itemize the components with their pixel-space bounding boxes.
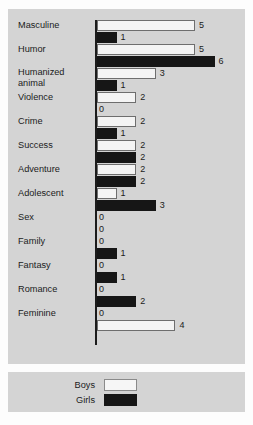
bar-slot-girls: 1 bbox=[97, 32, 245, 43]
category-label: Adolescent bbox=[18, 188, 92, 199]
bar-slot-girls: 2 bbox=[97, 176, 245, 187]
bar-value-label: 0 bbox=[99, 235, 104, 247]
bar-value-label: 6 bbox=[219, 55, 224, 67]
category-label: Feminine bbox=[18, 308, 92, 319]
bar-row: Humanizedanimal31 bbox=[8, 68, 245, 92]
legend-panel: Boys Girls bbox=[8, 372, 245, 412]
bar-girls bbox=[97, 176, 136, 187]
bar-value-label: 2 bbox=[140, 91, 145, 103]
category-label-line: animal bbox=[18, 78, 92, 89]
row-bars: 56 bbox=[97, 44, 245, 68]
bar-row: Masculine51 bbox=[8, 20, 245, 44]
legend-label-girls: Girls bbox=[8, 395, 104, 405]
bar-value-label: 1 bbox=[121, 127, 126, 139]
bar-girls bbox=[97, 56, 215, 67]
legend-item-girls: Girls bbox=[8, 393, 245, 407]
bar-girls bbox=[97, 200, 156, 211]
bar-row: Family01 bbox=[8, 236, 245, 260]
bar-value-label: 0 bbox=[99, 211, 104, 223]
bar-slot-boys: 0 bbox=[97, 284, 245, 295]
bar-girls bbox=[97, 152, 136, 163]
category-label: Humanizedanimal bbox=[18, 67, 92, 88]
row-bars: 00 bbox=[97, 212, 245, 236]
bar-boys bbox=[97, 20, 195, 31]
bar-boys bbox=[97, 116, 136, 127]
bar-slot-boys: 2 bbox=[97, 164, 245, 175]
bar-value-label: 1 bbox=[121, 79, 126, 91]
bar-value-label: 2 bbox=[140, 151, 145, 163]
row-bars: 02 bbox=[97, 284, 245, 308]
bar-row: Crime21 bbox=[8, 116, 245, 140]
bar-value-label: 0 bbox=[99, 223, 104, 235]
bar-boys bbox=[97, 140, 136, 151]
bar-girls bbox=[97, 80, 117, 91]
bar-value-label: 2 bbox=[140, 175, 145, 187]
legend-swatch-girls bbox=[104, 394, 137, 406]
bar-rows: Masculine51Humor56Humanizedanimal31Viole… bbox=[8, 20, 245, 332]
bar-slot-boys: 1 bbox=[97, 188, 245, 199]
bar-boys bbox=[97, 68, 156, 79]
category-label: Romance bbox=[18, 284, 92, 295]
bar-slot-boys: 0 bbox=[97, 212, 245, 223]
category-label: Violence bbox=[18, 92, 92, 103]
bar-row: Adventure22 bbox=[8, 164, 245, 188]
bar-value-label: 0 bbox=[99, 307, 104, 319]
category-label-line: Masculine bbox=[18, 20, 92, 31]
bar-slot-girls: 0 bbox=[97, 224, 245, 235]
chart-screenshot: Masculine51Humor56Humanizedanimal31Viole… bbox=[0, 0, 253, 425]
bar-value-label: 2 bbox=[140, 115, 145, 127]
bar-slot-girls: 2 bbox=[97, 152, 245, 163]
bar-slot-boys: 0 bbox=[97, 308, 245, 319]
chart-panel: Masculine51Humor56Humanizedanimal31Viole… bbox=[8, 9, 245, 364]
bar-slot-boys: 3 bbox=[97, 68, 245, 79]
bar-slot-boys: 5 bbox=[97, 20, 245, 31]
category-label: Humor bbox=[18, 44, 92, 55]
bar-value-label: 0 bbox=[99, 103, 104, 115]
category-label-line: Adolescent bbox=[18, 188, 92, 199]
category-label: Fantasy bbox=[18, 260, 92, 271]
bar-value-label: 0 bbox=[99, 283, 104, 295]
row-bars: 01 bbox=[97, 260, 245, 284]
row-bars: 31 bbox=[97, 68, 245, 92]
bar-value-label: 1 bbox=[121, 31, 126, 43]
category-label-line: Family bbox=[18, 236, 92, 247]
bar-value-label: 5 bbox=[199, 19, 204, 31]
bar-value-label: 5 bbox=[199, 43, 204, 55]
bar-row: Fantasy01 bbox=[8, 260, 245, 284]
bar-row: Sex00 bbox=[8, 212, 245, 236]
bar-slot-girls: 6 bbox=[97, 56, 245, 67]
row-bars: 20 bbox=[97, 92, 245, 116]
category-label: Adventure bbox=[18, 164, 92, 175]
bar-value-label: 4 bbox=[179, 319, 184, 331]
bar-slot-boys: 0 bbox=[97, 236, 245, 247]
row-bars: 22 bbox=[97, 140, 245, 164]
bar-girls bbox=[97, 320, 175, 331]
category-label-line: Romance bbox=[18, 284, 92, 295]
bar-row: Success22 bbox=[8, 140, 245, 164]
bar-value-label: 1 bbox=[121, 271, 126, 283]
bar-value-label: 3 bbox=[160, 199, 165, 211]
bar-slot-girls: 4 bbox=[97, 320, 245, 331]
category-label-line: Success bbox=[18, 140, 92, 151]
bar-slot-girls: 3 bbox=[97, 200, 245, 211]
bar-value-label: 3 bbox=[160, 67, 165, 79]
bar-value-label: 0 bbox=[99, 259, 104, 271]
category-label-line: Fantasy bbox=[18, 260, 92, 271]
legend-item-boys: Boys bbox=[8, 378, 245, 392]
category-label-line: Feminine bbox=[18, 308, 92, 319]
bar-value-label: 2 bbox=[140, 295, 145, 307]
category-label: Masculine bbox=[18, 20, 92, 31]
bar-girls bbox=[97, 272, 117, 283]
bar-girls bbox=[97, 296, 136, 307]
bar-row: Romance02 bbox=[8, 284, 245, 308]
bar-slot-boys: 2 bbox=[97, 140, 245, 151]
bar-row: Violence20 bbox=[8, 92, 245, 116]
category-label-line: Crime bbox=[18, 116, 92, 127]
bar-slot-girls: 2 bbox=[97, 296, 245, 307]
plot-area: Masculine51Humor56Humanizedanimal31Viole… bbox=[8, 9, 245, 364]
bar-girls bbox=[97, 128, 117, 139]
category-label-line: Humor bbox=[18, 44, 92, 55]
row-bars: 51 bbox=[97, 20, 245, 44]
category-label-line: Adventure bbox=[18, 164, 92, 175]
row-bars: 22 bbox=[97, 164, 245, 188]
